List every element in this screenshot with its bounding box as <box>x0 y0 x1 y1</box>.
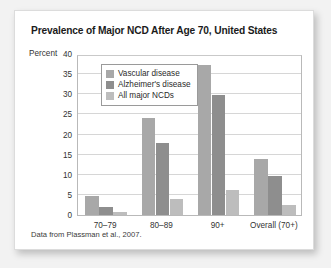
legend-swatch-icon <box>106 70 114 78</box>
y-axis-tick-label: 20 <box>46 131 72 140</box>
source-note: Data from Plassman et al., 2007. <box>31 230 142 239</box>
x-axis-tick-label: 90+ <box>190 221 246 230</box>
bar-group <box>198 56 240 215</box>
bar[interactable] <box>282 205 296 215</box>
legend-item[interactable]: Vascular disease <box>106 68 191 79</box>
legend-label: Vascular disease <box>118 69 180 78</box>
bar[interactable] <box>142 118 156 215</box>
bar[interactable] <box>268 176 282 215</box>
bar[interactable] <box>198 65 212 215</box>
bar[interactable] <box>254 159 268 215</box>
y-axis-tick-label: 40 <box>46 50 72 59</box>
y-axis-tick-label: 0 <box>46 211 72 220</box>
legend-label: Alzheimer's disease <box>118 80 191 89</box>
bar-group <box>254 56 296 215</box>
x-axis-tick-label: 70–79 <box>77 221 133 230</box>
bar[interactable] <box>226 190 240 215</box>
x-axis-tick-label: Overall (70+) <box>246 221 302 230</box>
y-axis-tick-label: 30 <box>46 90 72 99</box>
legend-item[interactable]: Alzheimer's disease <box>106 79 191 90</box>
y-axis-tick-label: 15 <box>46 151 72 160</box>
figure-card: Prevalence of Major NCD After Age 70, Un… <box>14 10 314 250</box>
legend-swatch-icon <box>106 81 114 89</box>
bar[interactable] <box>85 196 99 215</box>
bar[interactable] <box>113 212 127 215</box>
y-axis-tick-label: 10 <box>46 171 72 180</box>
legend-swatch-icon <box>106 92 114 100</box>
y-axis-tick-label: 35 <box>46 70 72 79</box>
y-axis-tick-label: 25 <box>46 110 72 119</box>
bar[interactable] <box>170 199 184 215</box>
y-axis-tick-label: 5 <box>46 191 72 200</box>
chart-legend: Vascular diseaseAlzheimer's diseaseAll m… <box>101 64 198 106</box>
legend-item[interactable]: All major NCDs <box>106 90 191 101</box>
legend-label: All major NCDs <box>118 91 174 100</box>
bar[interactable] <box>156 143 170 215</box>
bar[interactable] <box>99 207 113 215</box>
chart-plot-wrapper: Percent 0510152025303540 70–7980–8990+Ov… <box>15 11 315 251</box>
x-axis-tick-label: 80–89 <box>133 221 189 230</box>
bar[interactable] <box>212 95 226 215</box>
